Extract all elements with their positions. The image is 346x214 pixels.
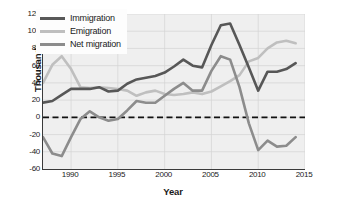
legend-item-immigration: Immigration (40, 12, 121, 25)
x-axis-tick-labels: 199019952000200520102015 (42, 171, 304, 185)
legend-label: Immigration (70, 14, 115, 23)
legend-label: Emigration (70, 27, 111, 36)
x-tick-label: 1995 (97, 171, 137, 179)
y-tick-label: -40 (14, 148, 40, 156)
y-tick-label: -60 (14, 165, 40, 173)
legend-item-emigration: Emigration (40, 25, 121, 38)
legend-swatch-icon (40, 43, 65, 46)
y-tick-label: 20 (14, 96, 40, 104)
y-tick-label: 60 (14, 62, 40, 70)
legend-swatch-icon (40, 17, 65, 20)
y-tick-label: -20 (14, 131, 40, 139)
chart-legend: ImmigrationEmigrationNet migration (36, 9, 127, 54)
migration-line-chart: Thousands 120100806040200-20-40-60 19901… (0, 0, 346, 214)
y-tick-label: 0 (14, 113, 40, 121)
x-axis-title: Year (42, 186, 304, 197)
legend-item-net-migration: Net migration (40, 38, 121, 51)
legend-swatch-icon (40, 30, 65, 33)
x-tick-label: 2000 (144, 171, 184, 179)
x-tick-label: 2010 (237, 171, 277, 179)
y-tick-label: 40 (14, 79, 40, 87)
x-tick-label: 1990 (50, 171, 90, 179)
legend-label: Net migration (70, 40, 121, 49)
x-tick-label: 2005 (190, 171, 230, 179)
x-tick-label: 2015 (284, 171, 324, 179)
